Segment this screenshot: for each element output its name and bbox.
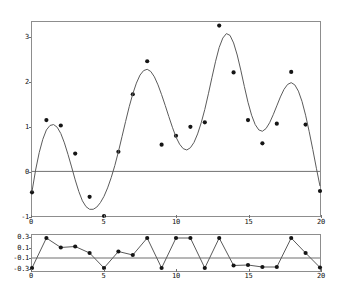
data-point xyxy=(145,236,149,240)
figure: -10123 05101520 0.30.1-0.1-0.3 05101520 xyxy=(0,0,357,285)
residual-y-axis: 0.30.1-0.1-0.3 xyxy=(0,234,29,272)
data-point xyxy=(246,263,250,267)
x-tick-mark xyxy=(31,269,32,272)
x-tick-mark xyxy=(104,269,105,272)
x-tick-mark xyxy=(321,269,322,272)
data-point xyxy=(73,245,77,249)
x-tick-label: 5 xyxy=(102,219,106,226)
data-point xyxy=(260,141,264,145)
main-plot-canvas xyxy=(32,22,320,216)
data-point xyxy=(203,266,207,270)
x-tick-label: 10 xyxy=(172,273,180,280)
data-point xyxy=(217,236,221,240)
x-tick-label: 5 xyxy=(102,273,106,280)
x-tick-mark xyxy=(31,215,32,218)
data-point xyxy=(203,120,207,124)
data-point xyxy=(232,264,236,268)
data-point xyxy=(145,59,149,63)
residual-plot-canvas xyxy=(32,235,320,271)
data-point xyxy=(217,23,221,27)
x-tick-mark xyxy=(249,215,250,218)
main-plot-panel xyxy=(31,21,321,217)
series-markers-data xyxy=(30,23,322,218)
main-y-axis: -10123 xyxy=(0,21,29,217)
x-tick-label: 15 xyxy=(245,219,253,226)
data-point xyxy=(88,195,92,199)
data-point xyxy=(131,253,135,257)
x-tick-label: 0 xyxy=(29,219,33,226)
data-point xyxy=(318,189,322,193)
y-tick-label: -0.1 xyxy=(13,255,29,262)
data-point xyxy=(232,70,236,74)
data-point xyxy=(44,118,48,122)
data-point xyxy=(275,122,279,126)
residual-plot-panel xyxy=(31,234,321,272)
x-tick-label: 15 xyxy=(245,273,253,280)
x-tick-mark xyxy=(176,215,177,218)
y-tick-label: -0.3 xyxy=(13,265,29,272)
data-point xyxy=(116,250,120,254)
data-point xyxy=(160,143,164,147)
y-tick-label: 0.1 xyxy=(17,244,29,251)
data-point xyxy=(88,251,92,255)
series-line-fit xyxy=(32,34,320,210)
data-point xyxy=(246,118,250,122)
data-point xyxy=(59,123,63,127)
x-tick-mark xyxy=(249,269,250,272)
x-tick-label: 10 xyxy=(172,219,180,226)
x-tick-mark xyxy=(176,269,177,272)
data-point xyxy=(188,236,192,240)
x-tick-label: 20 xyxy=(317,219,325,226)
x-tick-label: 20 xyxy=(317,273,325,280)
data-point xyxy=(289,236,293,240)
y-tick-label: 0.3 xyxy=(17,234,29,241)
data-point xyxy=(289,70,293,74)
data-point xyxy=(304,251,308,255)
x-tick-mark xyxy=(104,215,105,218)
y-tick-label: -1 xyxy=(21,214,29,221)
x-tick-label: 0 xyxy=(29,273,33,280)
data-point xyxy=(174,236,178,240)
x-tick-mark xyxy=(321,215,322,218)
residual-x-axis: 05101520 xyxy=(31,273,321,283)
data-point xyxy=(44,236,48,240)
data-point xyxy=(73,151,77,155)
data-point xyxy=(59,246,63,250)
data-point xyxy=(260,265,264,269)
main-x-axis: 05101520 xyxy=(31,219,321,229)
data-point xyxy=(275,265,279,269)
series-line-residual xyxy=(32,238,320,268)
data-point xyxy=(160,266,164,270)
data-point xyxy=(188,125,192,129)
